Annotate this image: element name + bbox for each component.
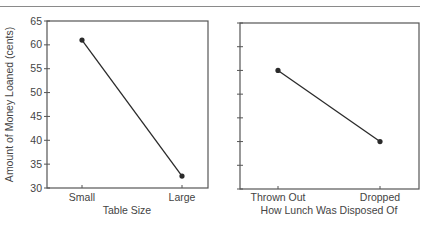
data-point-marker xyxy=(179,173,184,178)
right-data-line xyxy=(278,70,380,141)
right-panel: Thrown OutDroppedHow Lunch Was Disposed … xyxy=(237,23,419,216)
data-point-marker xyxy=(79,37,84,42)
left-panel: 3035404550556065SmallLargeTable SizeAmou… xyxy=(3,15,208,217)
x-axis-title: How Lunch Was Disposed Of xyxy=(261,204,398,216)
x-category-label: Dropped xyxy=(360,191,400,203)
y-tick-label: 60 xyxy=(30,38,42,50)
x-category-label: Small xyxy=(69,191,95,203)
y-tick-label: 45 xyxy=(30,110,42,122)
y-tick-label: 40 xyxy=(30,134,42,146)
y-tick-label: 50 xyxy=(30,86,42,98)
x-category-label: Thrown Out xyxy=(251,191,306,203)
y-tick-label: 35 xyxy=(30,158,42,170)
two-panel-line-chart: 3035404550556065SmallLargeTable SizeAmou… xyxy=(0,0,432,226)
left-data-line xyxy=(82,40,182,176)
y-axis-title: Amount of Money Loaned (cents) xyxy=(3,27,15,182)
y-tick-label: 55 xyxy=(30,62,42,74)
y-tick-label: 65 xyxy=(30,15,42,27)
data-point-marker xyxy=(377,139,382,144)
x-axis-title: Table Size xyxy=(103,204,152,216)
data-point-marker xyxy=(275,68,280,73)
y-tick-label: 30 xyxy=(30,182,42,194)
left-plot-frame xyxy=(47,21,208,188)
x-category-label: Large xyxy=(169,191,196,203)
